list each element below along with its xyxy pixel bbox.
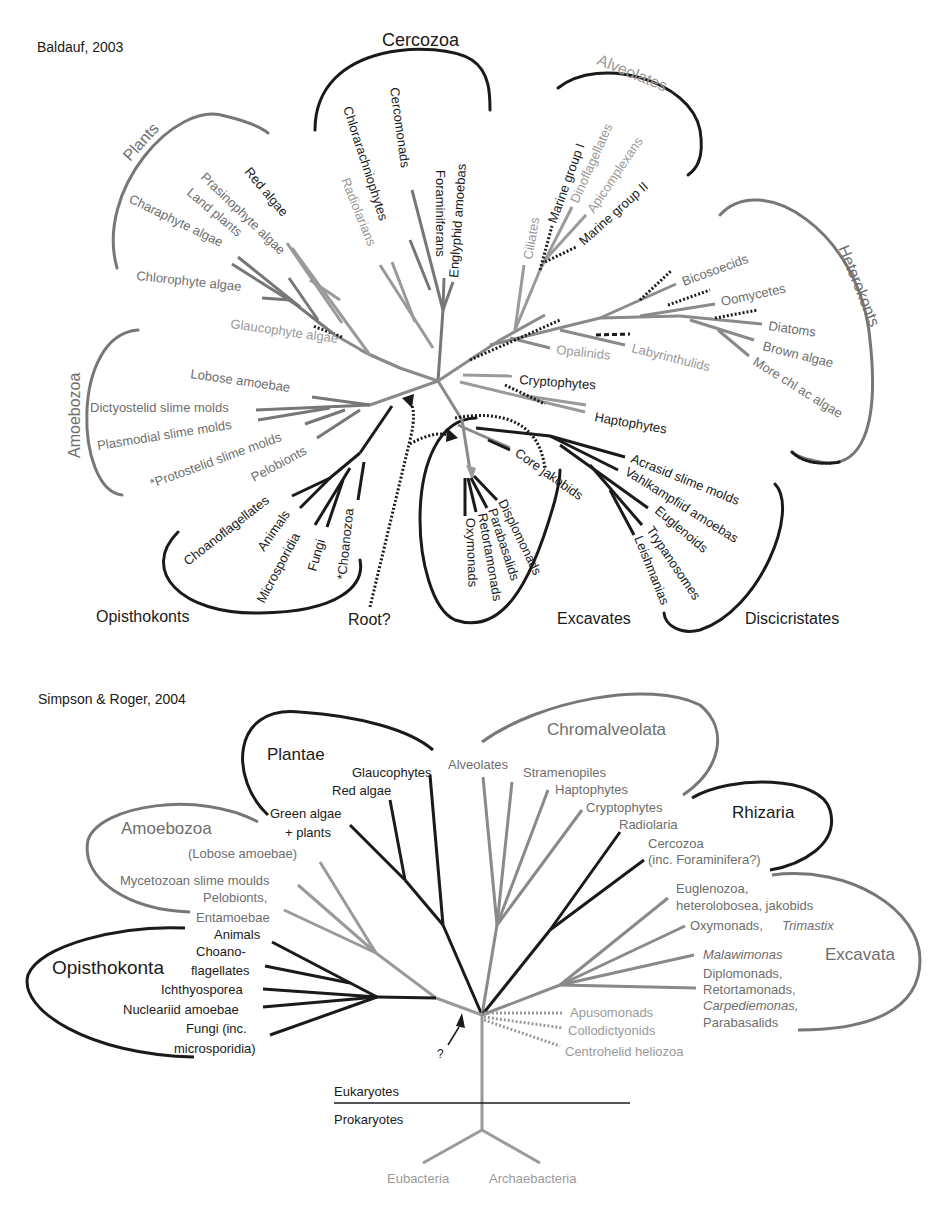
taxon-label: Chlorarachniophytes <box>340 104 391 223</box>
top-taxon-labels: Chlorarachniophytes Cercomonads Foramini… <box>90 86 845 607</box>
taxon-label: Labyrinthulids <box>630 340 712 374</box>
branch-amoebozoa-stem <box>370 381 438 405</box>
branch-diatoms-dotted <box>715 310 758 318</box>
taxon-label: Chlorophyte algae <box>136 268 243 294</box>
branch-alveolates <box>483 777 497 925</box>
group-label-excavata: Excavata <box>825 945 895 964</box>
taxon-label: Parabasalids <box>703 1015 779 1030</box>
group-label-plantae: Plantae <box>267 745 325 764</box>
branch-disci-stem <box>476 428 550 436</box>
root-dotted-arrow-2 <box>410 434 450 444</box>
branch-diplomonads <box>560 985 696 988</box>
taxon-label: Dictyostelid slime molds <box>90 400 229 415</box>
taxon-label: Oxymonads <box>463 518 480 588</box>
branch-ichthyo <box>263 989 377 997</box>
branch-opisthokont-stem <box>360 406 392 453</box>
group-label-opisthokonts: Opisthokonts <box>96 608 189 625</box>
prokaryotes-label: Prokaryotes <box>334 1112 404 1127</box>
branch-chromalveolate-stem <box>438 315 545 381</box>
taxon-label: heterolobosea, jakobids <box>676 898 814 913</box>
taxon-label: Pelobionts, <box>203 890 267 905</box>
branch-opalinids <box>510 338 550 348</box>
taxon-label: Mycetozoan slime moulds <box>120 873 270 888</box>
phylogeny-figure: Baldauf, 2003 <box>0 0 948 1210</box>
taxon-label: Cryptophytes <box>586 800 663 815</box>
taxon-label: Nucleariid amoebae <box>123 1002 239 1017</box>
taxon-label: Carpediemonas, <box>703 998 798 1013</box>
branch-cercozoa <box>550 860 644 930</box>
taxon-label: *Choanozoa <box>334 507 356 580</box>
taxon-label: Lobose amoebae <box>190 366 292 395</box>
branch-glaucophyte <box>360 350 400 368</box>
taxon-label: Ichthyosporea <box>161 982 243 997</box>
taxon-label: Euglenozoa, <box>676 881 748 896</box>
group-label-discicristates: Discicristates <box>745 610 839 627</box>
bracket-heterokonts-dotted <box>792 452 840 463</box>
taxon-label: Oxymonads, <box>690 918 763 933</box>
taxon-label: Core jakobids <box>512 445 586 503</box>
taxon-label: Green algae <box>270 806 342 821</box>
branch-opisth-stem <box>377 997 436 998</box>
taxon-label: Oomycetes <box>720 280 788 308</box>
branch-radiolaria <box>550 832 620 930</box>
eubacteria-label: Eubacteria <box>387 1171 450 1186</box>
top-tree-title: Baldauf, 2003 <box>37 39 124 55</box>
taxon-label: Ciliates <box>520 215 542 260</box>
taxon-label: (Lobose amoebae) <box>188 846 297 861</box>
branch-animals <box>300 478 330 508</box>
taxon-label: Diplomonads, <box>703 966 783 981</box>
taxon-label: microsporidia) <box>174 1041 256 1056</box>
branch-cercozoa-stem <box>438 310 443 381</box>
taxon-label: Opalinids <box>556 342 612 363</box>
taxon-label: Malawimonas <box>703 947 783 962</box>
branch-labyrinthulids-dashed <box>596 334 630 335</box>
branch-mycetozoan <box>298 885 376 953</box>
taxon-label: Cryptophytes <box>519 372 597 392</box>
group-label-opisthokonta: Opisthokonta <box>52 957 164 978</box>
taxon-label: Fungi (inc. <box>186 1021 247 1036</box>
taxon-label: Animals <box>214 927 261 942</box>
root-question-label: ? <box>437 1047 444 1061</box>
branch-amoebozoa-stem <box>376 953 436 998</box>
group-label-heterokonts: Heterokonts <box>835 243 883 329</box>
group-label-rhizaria: Rhizaria <box>732 803 795 822</box>
taxon-label: + plants <box>285 825 331 840</box>
taxon-label: Bicosoecids <box>680 251 751 289</box>
taxon-label: flagellates <box>191 963 250 978</box>
branch-eubacteria <box>423 1130 482 1163</box>
branch-plantae-inner <box>405 880 443 925</box>
taxon-label: Haptophytes <box>555 782 628 797</box>
branch-cryptophytes <box>463 375 512 376</box>
taxon-label: Apusomonads <box>570 1005 654 1020</box>
taxon-label: (inc. Foraminifera?) <box>648 852 761 867</box>
taxon-label: Cercozoa <box>648 836 704 851</box>
taxon-label: Radiolaria <box>619 817 678 832</box>
taxon-label: Red algae <box>332 783 391 798</box>
branch-bicosoecids-dotted <box>640 270 672 300</box>
branch-glaucophytes <box>430 775 443 925</box>
archaebacteria-label: Archaebacteria <box>489 1171 577 1186</box>
branch-oomycetes-dotted <box>668 290 710 305</box>
bottom-tree: Simpson & Roger, 2004 <box>27 691 920 1186</box>
taxon-label: Retortamonads, <box>703 982 796 997</box>
taxon-label: Diatoms <box>768 318 818 340</box>
eukaryotes-label: Eukaryotes <box>334 1084 400 1099</box>
branch-centrohelid-dotted <box>484 1020 560 1046</box>
taxon-label: Trimastix <box>782 918 834 933</box>
bottom-taxon-labels: Glaucophytes Red algae Green algae + pla… <box>120 757 834 1186</box>
bottom-tree-title: Simpson & Roger, 2004 <box>38 691 186 707</box>
taxon-label: Foraminiferans <box>433 170 448 257</box>
branch-oomycetes <box>640 304 715 316</box>
taxon-label: Englyphid amoebas <box>446 163 469 278</box>
taxon-label: Haptophytes <box>593 409 668 437</box>
branch-dictyo <box>256 405 370 410</box>
branch-radiolarians2 <box>392 262 415 322</box>
group-label-cercozoa: Cercozoa <box>382 30 460 50</box>
branch-pelobionts <box>317 410 360 438</box>
taxon-label: Plasmodial slime molds <box>96 417 233 453</box>
branch-plants-stem <box>335 335 438 381</box>
branch-cryptophytes <box>497 810 582 925</box>
group-label-amoebozoa: Amoebozoa <box>66 373 83 458</box>
group-label-root: Root? <box>348 611 391 628</box>
taxon-label: Glaucophyte algae <box>230 316 339 346</box>
